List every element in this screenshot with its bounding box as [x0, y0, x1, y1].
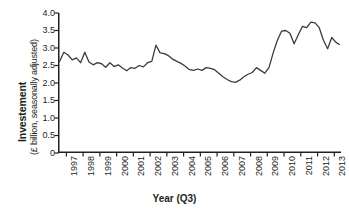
x-tick-label: 2010 — [288, 156, 297, 176]
data-series-line — [60, 22, 340, 82]
investment-line-chart: Investement (£ billion, seasonally adjus… — [0, 0, 349, 212]
x-tick-label: 2011 — [305, 156, 314, 175]
x-tick-label: 2000 — [121, 156, 130, 176]
x-tick-label: 2007 — [238, 156, 247, 176]
x-tick-label: 1999 — [104, 156, 113, 176]
x-tick-label: 1997 — [70, 156, 79, 176]
x-tick-label: 1998 — [87, 156, 96, 176]
x-tick-label: 2009 — [271, 156, 280, 176]
y-tick-label: 2.5 — [42, 61, 55, 70]
y-tick-label: 0 — [50, 149, 55, 158]
x-tick-label: 2013 — [338, 156, 347, 176]
y-tick-label: 0.5 — [42, 131, 55, 140]
y-tick-label: 1.5 — [42, 96, 55, 105]
y-tick-label: 4.0 — [42, 9, 55, 18]
x-tick-label: 2006 — [221, 156, 230, 176]
axis-ticks — [55, 13, 335, 157]
y-tick-label: 3.5 — [42, 26, 55, 35]
x-tick-label: 2005 — [204, 156, 213, 176]
y-axis-title-main: Investement — [16, 82, 28, 142]
x-tick-label: 2003 — [171, 156, 180, 176]
x-tick-label: 2008 — [255, 156, 264, 176]
plot-svg — [58, 13, 341, 153]
y-axis-tick-labels: 00.51.01.52.02.53.03.54.0 — [33, 8, 55, 160]
plot-area — [58, 13, 341, 153]
x-axis-title: Year (Q3) — [0, 193, 349, 204]
y-tick-label: 2.0 — [42, 79, 55, 88]
x-tick-label: 2001 — [137, 156, 146, 176]
y-tick-label: 1.0 — [42, 114, 55, 123]
x-axis-tick-labels: 1997199819992000200120022003200420052006… — [58, 156, 348, 192]
x-tick-label: 2012 — [322, 156, 331, 176]
x-tick-label: 2002 — [154, 156, 163, 176]
x-tick-label: 2004 — [188, 156, 197, 176]
y-tick-label: 3.0 — [42, 44, 55, 53]
